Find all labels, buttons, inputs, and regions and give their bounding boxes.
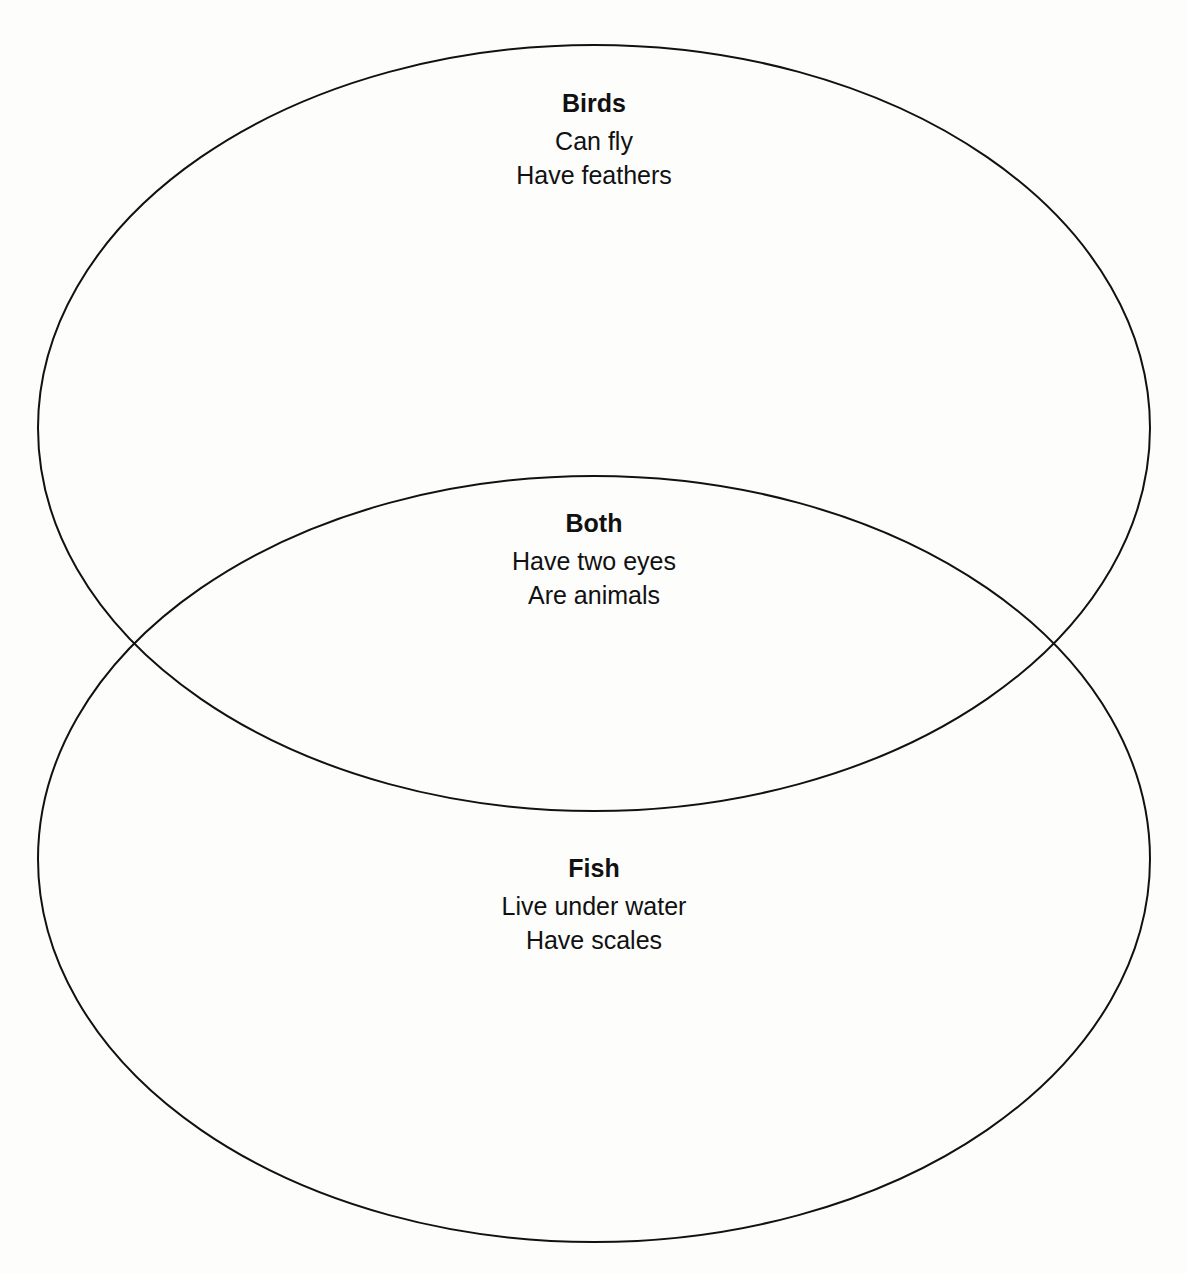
both-item: Have two eyes: [394, 544, 794, 578]
fish-item: Live under water: [394, 889, 794, 923]
fish-label-block: Fish Live under water Have scales: [394, 853, 794, 957]
both-title: Both: [394, 508, 794, 538]
fish-title: Fish: [394, 853, 794, 883]
birds-item: Can fly: [394, 124, 794, 158]
fish-item: Have scales: [394, 923, 794, 957]
both-label-block: Both Have two eyes Are animals: [394, 508, 794, 612]
both-item: Are animals: [394, 578, 794, 612]
birds-title: Birds: [394, 88, 794, 118]
birds-label-block: Birds Can fly Have feathers: [394, 88, 794, 192]
birds-item: Have feathers: [394, 158, 794, 192]
